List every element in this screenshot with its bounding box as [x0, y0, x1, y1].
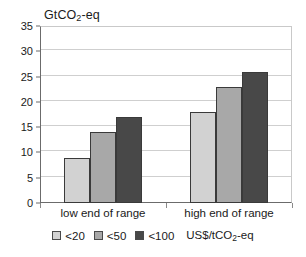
x-axis-tick — [292, 203, 293, 208]
bar-chart: GtCO2-eq 05101520253035 low end of range… — [0, 0, 306, 257]
gridline — [41, 176, 291, 177]
legend-item[interactable]: <20 — [52, 230, 85, 242]
y-axis-title-post: -eq — [81, 8, 99, 22]
y-axis-tick-label: 10 — [21, 146, 33, 158]
legend-unit-post: -eq — [237, 229, 254, 241]
gridline — [41, 125, 291, 126]
x-axis-category-label: low end of range — [60, 207, 145, 219]
y-axis-tick-label: 0 — [27, 197, 33, 209]
legend-label: <50 — [107, 230, 127, 242]
legend-item[interactable]: <50 — [94, 230, 127, 242]
gridline — [41, 75, 291, 76]
legend-item[interactable]: <100 — [135, 230, 174, 242]
y-axis-tick-label: 5 — [27, 172, 33, 184]
y-axis-title-pre: GtCO — [44, 8, 76, 22]
legend-swatch-icon — [52, 231, 61, 240]
chart-legend: <20<50<100US$/tCO2-eq — [0, 229, 306, 243]
legend-swatch-icon — [135, 231, 144, 240]
legend-unit-label: US$/tCO2-eq — [186, 229, 253, 243]
y-axis-tick-label: 30 — [21, 45, 33, 57]
x-axis-category-labels: low end of rangehigh end of range — [40, 207, 292, 225]
plot-area — [40, 26, 292, 203]
legend-label: <20 — [65, 230, 85, 242]
gridline — [41, 100, 291, 101]
gridline — [41, 150, 291, 151]
gridline — [41, 49, 291, 50]
gridlines — [41, 27, 291, 202]
legend-label: <100 — [148, 230, 174, 242]
x-axis-category-label: high end of range — [184, 207, 274, 219]
y-axis-title: GtCO2-eq — [44, 8, 100, 23]
y-axis-tick-label: 20 — [21, 96, 33, 108]
y-axis-tick-label: 35 — [21, 20, 33, 32]
y-axis-tick-labels: 05101520253035 — [0, 26, 40, 203]
legend-swatch-icon — [94, 231, 103, 240]
y-axis-tick-label: 15 — [21, 121, 33, 133]
legend-unit-pre: US$/tCO — [186, 229, 232, 241]
y-axis-tick-label: 25 — [21, 71, 33, 83]
